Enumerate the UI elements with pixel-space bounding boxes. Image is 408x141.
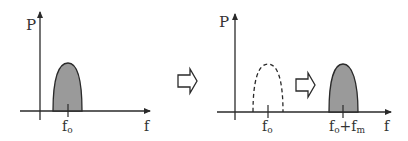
right-x-label: f xyxy=(384,118,391,134)
left-f0-label: fo xyxy=(62,118,73,135)
left-plot: P f fo xyxy=(20,12,151,135)
right-plot: P f fo fo+fm xyxy=(217,13,391,135)
left-y-label: P xyxy=(26,16,36,34)
original-spectrum-dashed xyxy=(253,64,283,112)
left-spectrum-filled xyxy=(53,63,82,111)
hollow-right-arrow-icon xyxy=(296,73,315,97)
shifted-f0-plus-fm-label: fo+fm xyxy=(329,118,366,135)
right-y-label: P xyxy=(219,13,229,31)
original-f0-label: fo xyxy=(262,118,273,135)
hollow-right-arrow-icon xyxy=(178,69,197,93)
left-x-label: f xyxy=(144,118,151,134)
frequency-shift-diagram: P f fo P f fo fo+fm xyxy=(0,0,408,141)
shifted-spectrum-filled xyxy=(329,64,358,112)
